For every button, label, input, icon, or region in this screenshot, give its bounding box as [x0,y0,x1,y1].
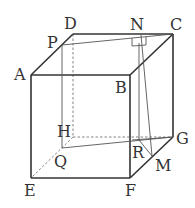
cube-diagram: D N C P A B H G R Q M E F [0,0,195,208]
label-M: M [155,156,171,175]
label-B: B [115,78,127,97]
label-G: G [176,129,189,148]
label-E: E [24,181,36,200]
segment-NM [141,35,152,156]
label-N: N [130,15,144,34]
label-C: C [170,15,182,34]
label-A: A [13,65,26,84]
label-Q: Q [54,152,67,171]
label-P: P [47,33,58,52]
segment-PC [62,34,173,45]
label-D: D [64,14,77,33]
label-R: R [132,143,145,162]
label-H: H [57,122,71,141]
edge-BC [130,34,173,75]
label-F: F [125,181,136,200]
